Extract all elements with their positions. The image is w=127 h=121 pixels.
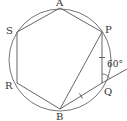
- vertex-label-b: B: [56, 111, 63, 121]
- geometry-diagram: A S P R Q B 60°: [0, 0, 127, 121]
- vertex-label-p: P: [105, 24, 112, 35]
- circumscribed-circle: [9, 9, 111, 111]
- vertex-label-r: R: [5, 80, 13, 91]
- vertex-label-s: S: [6, 25, 13, 36]
- segment-pa: [60, 8, 102, 32]
- angle-label: 60°: [107, 59, 123, 69]
- vertex-label-a: A: [55, 0, 64, 8]
- segment-as: [17, 8, 60, 32]
- vertex-label-q: Q: [104, 86, 112, 97]
- extension-bq: [102, 69, 127, 83]
- segment-pb: [60, 32, 102, 109]
- equal-length-tick-marks: [79, 58, 105, 99]
- tick-bq: [79, 93, 82, 98]
